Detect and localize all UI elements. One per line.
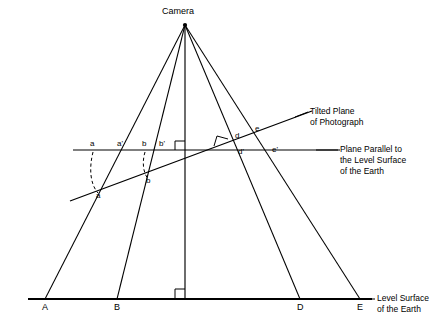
ground-point-label-B: B xyxy=(114,302,120,313)
horizontal-plane-label-e-prime: e' xyxy=(272,145,278,154)
ray-camera-to-D xyxy=(185,25,300,299)
ray-camera-to-A xyxy=(45,25,185,299)
parallel-plane-annotation-line3: of the Earth xyxy=(340,166,384,176)
ground-annotation-line2: of the Earth xyxy=(377,304,421,314)
swing-arc-a xyxy=(91,152,98,193)
tilted-plane-label-d: d xyxy=(235,131,239,140)
parallel-plane-annotation-line2: the Level Surface xyxy=(340,155,406,165)
horizontal-plane-label-a: a xyxy=(90,139,94,148)
tilted-plane-line xyxy=(70,111,312,201)
camera-ray-group xyxy=(45,25,360,299)
leader-tilted-plane-label xyxy=(295,112,308,117)
ground-annotation-line1: Level Surface xyxy=(377,293,429,303)
ground-point-label-E: E xyxy=(357,302,363,313)
tilted-plane-annotation-line2: of Photograph xyxy=(310,117,363,127)
tilted-plane-label-e: e xyxy=(255,124,259,133)
tilted-plane-label-b: b xyxy=(146,176,150,185)
camera-vertex-dot xyxy=(183,23,187,27)
right-angle-axis-horizontal-plane xyxy=(175,141,185,150)
ground-point-label-D: D xyxy=(297,302,304,313)
ray-camera-to-E xyxy=(185,25,360,299)
ground-point-label-A: A xyxy=(42,302,48,313)
horizontal-plane-label-d-prime: d' xyxy=(238,147,244,156)
diagram-canvas: Camera A B D E a a' b b' d' e' a b d e T… xyxy=(0,0,446,325)
horizontal-plane-label-a-prime: a' xyxy=(117,139,123,148)
horizontal-plane-label-b-prime: b' xyxy=(159,139,165,148)
tilted-plane-label-a: a xyxy=(96,191,100,200)
camera-label: Camera xyxy=(162,6,194,17)
horizontal-plane-label-b: b xyxy=(142,139,146,148)
right-angle-axis-ground xyxy=(175,289,185,299)
tilted-plane-annotation-line1: Tilted Plane xyxy=(310,106,355,116)
parallel-plane-annotation-line1: Plane Parallel to xyxy=(340,144,402,154)
